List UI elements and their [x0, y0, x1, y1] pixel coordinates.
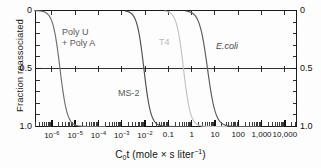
- curve-label-ms2: MS-2: [118, 88, 140, 99]
- y-tick-label-right: 0: [300, 5, 305, 15]
- figure-root: Fraction reassociated C0t (mole × s lite…: [0, 0, 321, 168]
- curve-label-t4: T4: [159, 37, 170, 48]
- reassociation-kinetics-chart: [0, 0, 321, 168]
- curve-label-poly-ua: Poly U + Poly A: [62, 27, 95, 49]
- x-axis-title: C0t (mole × s liter−1): [0, 148, 321, 161]
- plot-area: Fraction reassociated C0t (mole × s lite…: [0, 0, 321, 168]
- x-axis-title-rest: t (mole × s liter: [127, 149, 195, 160]
- x-axis-title-close: ): [202, 149, 205, 160]
- y-tick-label-left: 0.5: [6, 63, 32, 73]
- y-tick-label-right: 0.5: [300, 63, 313, 73]
- x-axis-title-c: C: [115, 149, 122, 160]
- curve-label-ecoli: E.coli: [216, 41, 238, 52]
- y-tick-label-left: 0: [6, 5, 32, 15]
- x-tick-label: 10,000: [265, 130, 305, 139]
- y-tick-label-left: 1.0: [6, 121, 32, 131]
- curve-label-poly-ua-line2: + Poly A: [62, 38, 95, 49]
- curve-label-poly-ua-line1: Poly U: [62, 27, 95, 38]
- y-tick-label-right: 1.0: [300, 121, 313, 131]
